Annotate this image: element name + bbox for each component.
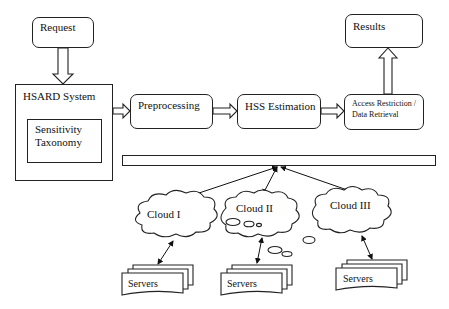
cloud1-label: Cloud I bbox=[147, 208, 180, 221]
bubble-6 bbox=[282, 252, 292, 257]
cloud2-label: Cloud II bbox=[236, 202, 273, 215]
connectors-layer bbox=[0, 0, 449, 309]
bubble-5 bbox=[268, 247, 282, 254]
arrow-access-to-results bbox=[379, 48, 397, 94]
link-cloud2-servers bbox=[257, 238, 262, 263]
link-cloud1-servers bbox=[158, 241, 173, 264]
bubble-2 bbox=[244, 221, 254, 227]
link-cloud3-servers bbox=[362, 236, 372, 259]
bubble-1 bbox=[226, 219, 240, 226]
bubble-4 bbox=[303, 237, 315, 244]
arrow-system-to-preprocessing bbox=[113, 104, 130, 118]
arrow-hss-to-access bbox=[321, 104, 344, 118]
bubble-3 bbox=[257, 223, 262, 226]
hsard-architecture-diagram: Request HSARD System Sensitivity Taxonom… bbox=[0, 0, 449, 309]
arrow-preprocessing-to-hss bbox=[213, 104, 237, 118]
servers2-label: Servers bbox=[227, 277, 257, 290]
arrow-request-to-system bbox=[53, 48, 73, 84]
servers1-label: Servers bbox=[128, 277, 158, 290]
servers3-label: Servers bbox=[343, 272, 373, 285]
cloud3-label: Cloud III bbox=[330, 199, 371, 212]
